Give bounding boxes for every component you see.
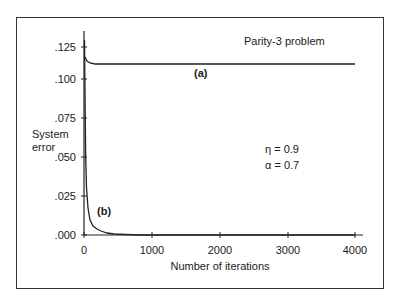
y-tick-label: .100 [55,73,76,85]
chart-title: Parity-3 problem [244,35,325,47]
chart: .000 .025 .050 .075 .100 .125 0 1000 200… [0,0,399,303]
y-tick-label: .025 [55,190,76,202]
alpha-annotation: α = 0.7 [265,159,299,171]
y-axis-label-line2: error [32,141,56,153]
x-tick-label: 4000 [343,244,367,256]
x-tick-label: 3000 [276,244,300,256]
x-axis-label: Number of iterations [170,260,270,272]
x-tick-label: 2000 [208,244,232,256]
series-b-line [85,40,356,235]
y-tick-label: .000 [55,229,76,241]
x-tick-label: 0 [81,244,87,256]
series-a-label: (a) [194,67,208,79]
y-tick-label: .050 [55,151,76,163]
y-axis-label-line1: System [32,128,69,140]
x-tick-label: 1000 [140,244,164,256]
series-b-label: (b) [97,205,111,217]
y-tick-label: .075 [55,112,76,124]
y-tick-label: .125 [55,41,76,53]
eta-annotation: η = 0.9 [265,143,299,155]
series-a-line [85,57,355,64]
